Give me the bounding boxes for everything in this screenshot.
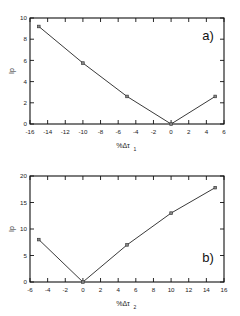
svg-text:-2: -2: [63, 286, 69, 293]
svg-text:2: 2: [24, 99, 28, 106]
svg-text:6: 6: [222, 128, 226, 135]
svg-text:8: 8: [24, 35, 28, 42]
svg-text:-16: -16: [26, 128, 36, 135]
data-series-line-a: [39, 26, 215, 124]
figure-container: -16-14-12-10-8-6-4-20246 0246810 Ip %Δτ …: [0, 0, 240, 316]
plot-area-b: -6-4-20246810121416 05101520 Ip %Δτ 2 b): [0, 158, 240, 316]
x-ticks-a: [30, 18, 224, 124]
y-ticks-b: [30, 176, 224, 282]
data-point-markers-a: [38, 25, 217, 125]
x-tick-labels-a: -16-14-12-10-8-6-4-20246: [26, 128, 227, 135]
panel-label-b: b): [202, 250, 214, 265]
svg-text:12: 12: [185, 286, 192, 293]
svg-text:10: 10: [20, 14, 27, 21]
svg-text:6: 6: [24, 57, 28, 64]
axes-a: [30, 18, 224, 124]
svg-text:-4: -4: [45, 286, 51, 293]
chart-panel-a: -16-14-12-10-8-6-4-20246 0246810 Ip %Δτ …: [0, 0, 240, 158]
axes-b: [30, 176, 224, 282]
svg-text:0: 0: [169, 128, 173, 135]
svg-text:2: 2: [99, 286, 103, 293]
x-tick-labels-b: -6-4-20246810121416: [27, 286, 228, 293]
data-series-line-b: [39, 188, 215, 282]
svg-text:8: 8: [152, 286, 156, 293]
chart-panel-b: -6-4-20246810121416 05101520 Ip %Δτ 2 b): [0, 158, 240, 316]
svg-text:6: 6: [134, 286, 138, 293]
svg-text:0: 0: [24, 278, 28, 285]
svg-text:4: 4: [24, 78, 28, 85]
svg-text:4: 4: [116, 286, 120, 293]
svg-text:-2: -2: [151, 128, 157, 135]
svg-text:10: 10: [168, 286, 175, 293]
x-axis-label-subscript-a: 1: [134, 146, 137, 152]
svg-text:15: 15: [20, 199, 27, 206]
y-tick-labels-b: 05101520: [20, 172, 27, 285]
y-tick-labels-a: 0246810: [20, 14, 27, 127]
x-axis-label-subscript-b: 2: [134, 304, 137, 310]
svg-text:0: 0: [24, 120, 28, 127]
y-ticks-a: [30, 18, 224, 124]
svg-text:14: 14: [203, 286, 210, 293]
svg-text:-6: -6: [27, 286, 33, 293]
x-ticks-b: [30, 176, 224, 282]
x-axis-label-a: %Δτ: [116, 142, 130, 149]
svg-text:-4: -4: [133, 128, 139, 135]
svg-text:-10: -10: [78, 128, 88, 135]
x-axis-label-b: %Δτ: [116, 300, 130, 307]
svg-text:5: 5: [24, 252, 28, 259]
panel-label-a: a): [202, 28, 214, 43]
svg-text:20: 20: [20, 172, 27, 179]
y-axis-label-b: Ip: [8, 226, 16, 232]
y-axis-label-a: Ip: [8, 68, 16, 74]
data-point-markers-b: [38, 186, 217, 283]
svg-text:10: 10: [20, 225, 27, 232]
svg-text:-14: -14: [43, 128, 53, 135]
svg-text:-6: -6: [115, 128, 121, 135]
svg-text:-8: -8: [98, 128, 104, 135]
svg-text:-12: -12: [61, 128, 71, 135]
svg-text:2: 2: [187, 128, 191, 135]
svg-text:0: 0: [81, 286, 85, 293]
svg-text:16: 16: [221, 286, 228, 293]
svg-text:4: 4: [205, 128, 209, 135]
plot-area-a: -16-14-12-10-8-6-4-20246 0246810 Ip %Δτ …: [0, 0, 240, 158]
